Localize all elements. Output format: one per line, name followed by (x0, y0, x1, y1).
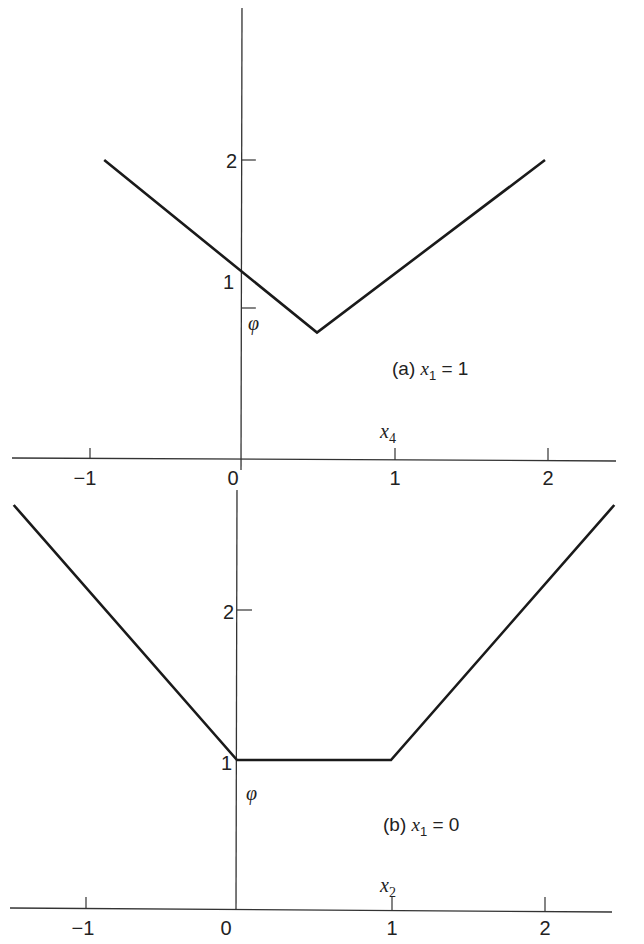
x-tick-label: −1 (74, 467, 97, 489)
x-tick-label: −1 (72, 917, 95, 939)
x-axis-label: x2 (379, 874, 396, 900)
panel-a: −1 0 1 2 1 2 φ x4 (a) x1 = 1 (12, 8, 616, 489)
y-axis (241, 8, 242, 470)
y-tick-label: 1 (223, 271, 234, 293)
x-tick-labels: −1 0 1 2 (72, 917, 551, 939)
x-axis (10, 908, 612, 912)
phi-curve-b (14, 505, 615, 760)
x-tick-label: 0 (227, 467, 238, 489)
x-tick-label: 2 (539, 917, 550, 939)
x-tick-label: 0 (220, 917, 231, 939)
panel-annotation: (b) x1 = 0 (383, 814, 459, 839)
phi-curve-a (104, 160, 545, 333)
y-tick-label: 2 (223, 601, 234, 623)
figure: −1 0 1 2 1 2 φ x4 (a) x1 = 1 −1 0 1 2 (0, 0, 644, 944)
y-tick-labels: 1 2 (223, 150, 237, 293)
x-tick-labels: −1 0 1 2 (74, 467, 554, 489)
x-axis (12, 458, 616, 461)
panel-annotation: (a) x1 = 1 (392, 358, 468, 383)
y-ticks (242, 160, 256, 308)
x-axis-label: x4 (379, 420, 396, 446)
x-tick-label: 1 (389, 467, 400, 489)
y-axis (236, 490, 237, 910)
y-tick-label: 1 (221, 752, 232, 774)
panel-b: −1 0 1 2 1 2 φ x2 (b) x1 = 0 (10, 490, 614, 939)
x-tick-label: 1 (386, 917, 397, 939)
y-tick-label: 2 (226, 150, 237, 172)
x-tick-label: 2 (542, 467, 553, 489)
y-axis-label-phi: φ (248, 312, 259, 335)
y-axis-label-phi: φ (246, 782, 257, 805)
